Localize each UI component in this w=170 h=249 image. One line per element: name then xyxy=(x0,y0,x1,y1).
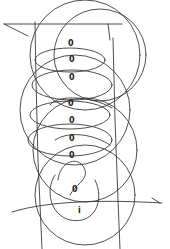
marker-label: 0 xyxy=(68,100,74,108)
marker-label: i xyxy=(78,207,81,215)
marker-label: 0 xyxy=(72,186,78,194)
marker-label: 0 xyxy=(69,56,75,64)
sketch-drawing xyxy=(0,0,170,249)
marker-label: 0 xyxy=(68,40,74,48)
marker-label: 0 xyxy=(69,117,75,125)
marker-label: 0 xyxy=(69,74,75,82)
marker-label: 0 xyxy=(69,135,75,143)
marker-label: 0 xyxy=(69,152,75,160)
